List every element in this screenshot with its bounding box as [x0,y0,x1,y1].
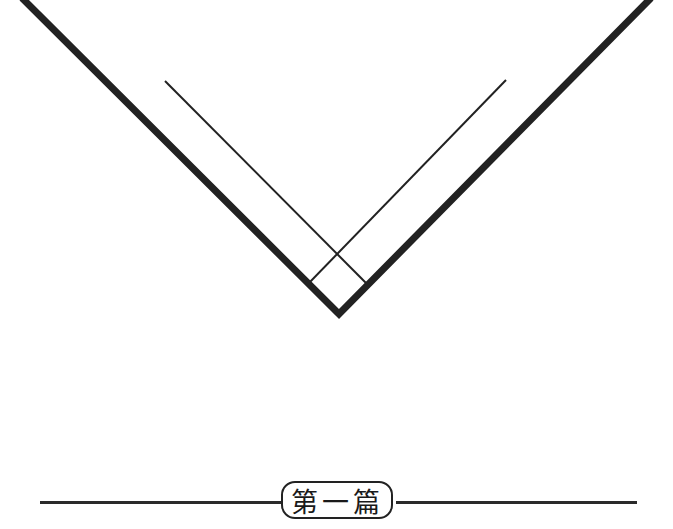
divider-rule-right [396,501,637,504]
chevron-v-graphic [0,0,673,529]
part-title-label: 第一篇 [281,481,393,519]
inner-line-left [165,81,366,283]
inner-line-right [309,80,506,283]
outer-v-stroke [22,0,651,314]
divider-rule-left [40,501,282,504]
